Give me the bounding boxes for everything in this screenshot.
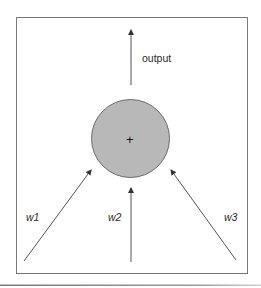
weight-label-w3: w3: [224, 212, 237, 223]
separator-line: [0, 285, 261, 287]
weight-label-w2: w2: [108, 212, 121, 223]
weight-label-w1: w1: [26, 212, 39, 223]
plus-icon: +: [126, 133, 134, 146]
output-label: output: [142, 53, 171, 64]
